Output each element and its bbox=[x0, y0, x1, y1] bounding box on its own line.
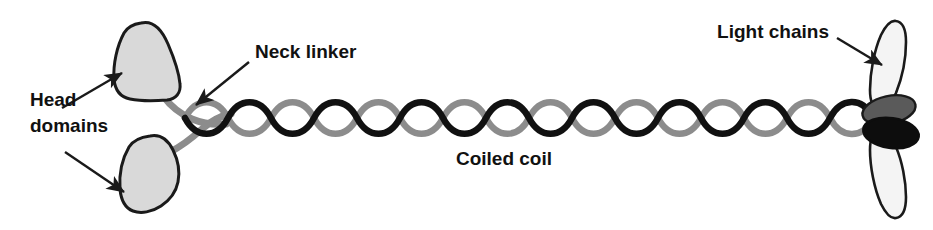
light-chains-group bbox=[860, 21, 921, 218]
label-light-chains: Light chains bbox=[717, 21, 829, 42]
neck-linker-arrow bbox=[196, 62, 249, 105]
diagram-canvas: Head domains Neck linker Coiled coil Lig… bbox=[0, 0, 933, 230]
label-head-domains-line2: domains bbox=[30, 115, 108, 136]
myosin-diagram: Head domains Neck linker Coiled coil Lig… bbox=[0, 0, 933, 230]
label-head-domains-line1: Head bbox=[30, 89, 76, 110]
coiled-coil-group bbox=[185, 102, 872, 134]
coiled-coil-strand-dark bbox=[185, 102, 872, 134]
label-coiled-coil: Coiled coil bbox=[456, 148, 552, 169]
head-domain-upper bbox=[114, 22, 180, 100]
label-neck-linker: Neck linker bbox=[255, 41, 357, 62]
head-domain-group bbox=[114, 22, 180, 212]
head-domains-lower-arrow bbox=[65, 152, 124, 192]
head-domain-lower bbox=[120, 136, 179, 213]
